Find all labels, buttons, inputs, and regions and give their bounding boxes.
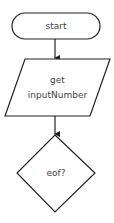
decision-label: eof? [17,166,95,180]
start-label: start [12,19,100,33]
input-label-line1: get [5,73,110,87]
input-label-line2: inputNumber [5,88,110,102]
flowchart-canvas [0,0,114,223]
